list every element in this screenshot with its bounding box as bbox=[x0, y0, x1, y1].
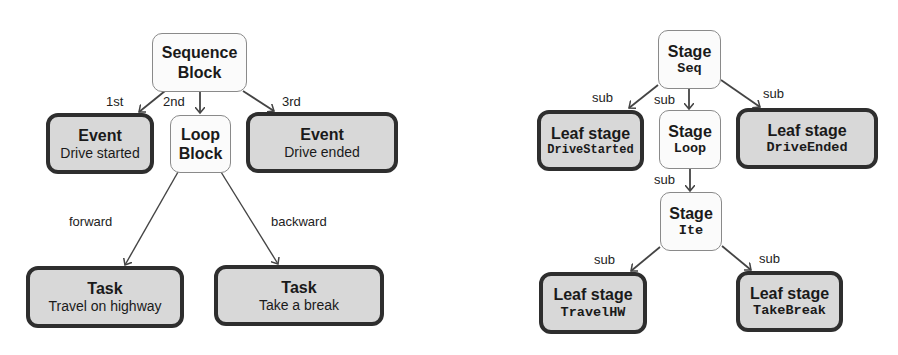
node-title: Leaf stage bbox=[767, 121, 846, 140]
edge-seq-to-leaf-end bbox=[721, 80, 760, 107]
node-subtitle: Travel on highway bbox=[48, 298, 161, 315]
node-title: Event bbox=[300, 125, 344, 144]
node-title: Leaf stage bbox=[551, 124, 630, 143]
leaf-stage-takebreak-node: Leaf stage TakeBreak bbox=[736, 271, 843, 332]
stage-seq-node: Stage Seq bbox=[658, 30, 721, 89]
node-title: Task bbox=[281, 278, 316, 297]
node-title: Leaf stage bbox=[553, 285, 632, 304]
edge-label-sub: sub bbox=[594, 252, 615, 267]
node-code: Ite bbox=[679, 223, 703, 239]
leaf-stage-driveended-node: Leaf stage DriveEnded bbox=[736, 108, 878, 169]
edge-label-sub: sub bbox=[763, 86, 784, 101]
task-take-a-break-node: Task Take a break bbox=[214, 265, 384, 326]
edge-label-1st: 1st bbox=[106, 94, 123, 109]
node-title: Stage bbox=[669, 204, 713, 223]
node-subtitle: Block bbox=[178, 63, 222, 82]
edge-ite-to-leaf-travel bbox=[631, 247, 660, 271]
leaf-stage-drivestarted-node: Leaf stage DriveStarted bbox=[537, 110, 644, 171]
task-travel-on-highway-node: Task Travel on highway bbox=[26, 266, 184, 328]
node-title: Stage bbox=[668, 42, 712, 61]
node-subtitle: Take a break bbox=[259, 297, 339, 314]
node-code: DriveStarted bbox=[547, 143, 633, 157]
node-subtitle: Drive started bbox=[60, 145, 139, 162]
event-drive-ended-node: Event Drive ended bbox=[246, 112, 398, 173]
node-title: Sequence bbox=[162, 43, 238, 62]
node-title: Loop bbox=[181, 125, 220, 144]
node-code: DriveEnded bbox=[766, 140, 847, 156]
leaf-stage-travelhw-node: Leaf stage TravelHW bbox=[539, 272, 647, 334]
node-title: Stage bbox=[668, 122, 712, 141]
edge-label-sub: sub bbox=[592, 90, 613, 105]
edge-seq-to-event-start bbox=[139, 91, 165, 112]
node-code: TravelHW bbox=[561, 305, 626, 321]
edge-seq-to-event-end bbox=[243, 91, 274, 111]
node-code: Loop bbox=[674, 141, 706, 157]
edge-loop-to-task-forward bbox=[125, 172, 178, 265]
edge-label-2nd: 2nd bbox=[163, 94, 185, 109]
stage-loop-node: Stage Loop bbox=[659, 110, 721, 169]
sequence-block-node: Sequence Block bbox=[152, 33, 247, 92]
event-drive-started-node: Event Drive started bbox=[46, 113, 154, 174]
node-title: Event bbox=[78, 126, 122, 145]
node-subtitle: Drive ended bbox=[284, 144, 360, 161]
edge-label-sub: sub bbox=[654, 172, 675, 187]
node-title: Leaf stage bbox=[750, 284, 829, 303]
loop-block-node: Loop Block bbox=[170, 115, 231, 173]
node-title: Task bbox=[87, 279, 122, 298]
edge-label-backward: backward bbox=[271, 214, 327, 229]
node-subtitle: Block bbox=[179, 144, 223, 163]
node-code: Seq bbox=[677, 61, 701, 77]
edge-label-sub: sub bbox=[654, 92, 675, 107]
edge-ite-to-leaf-break bbox=[722, 246, 751, 270]
edge-loop-to-task-backward bbox=[221, 172, 278, 264]
edge-label-3rd: 3rd bbox=[282, 94, 301, 109]
edge-label-sub: sub bbox=[759, 251, 780, 266]
node-code: TakeBreak bbox=[753, 303, 826, 319]
edge-label-forward: forward bbox=[69, 214, 112, 229]
stage-ite-node: Stage Ite bbox=[660, 192, 722, 251]
